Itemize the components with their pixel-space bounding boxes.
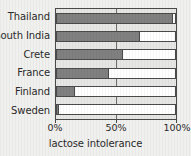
x-axis-tick-label: 100% [164, 122, 191, 133]
bar-row [56, 9, 176, 27]
bar-track [56, 104, 176, 115]
bar-row [56, 27, 176, 45]
x-axis-tick-labels: 0%50%100% [35, 122, 191, 135]
bar-row [56, 64, 176, 82]
bar-track [56, 31, 176, 42]
category-label: Crete [0, 45, 53, 64]
x-axis-tick-label: 50% [106, 122, 127, 133]
category-label: Sweden [0, 101, 53, 120]
bar-fill [57, 105, 59, 114]
x-axis-tick-label: 0% [48, 122, 63, 133]
bar-fill [57, 87, 75, 96]
x-axis-title: lactose intolerance [0, 138, 191, 149]
bar-fill [57, 32, 140, 41]
category-label: South India [0, 27, 53, 46]
bar-row [56, 101, 176, 119]
bar-rows [56, 9, 176, 119]
bar-track [56, 49, 176, 60]
category-axis-labels: Thailand South India Crete France Finlan… [0, 8, 53, 120]
bar-fill [57, 69, 109, 78]
bar-track [56, 13, 176, 24]
plot-area [55, 8, 177, 120]
bar-fill [57, 14, 173, 23]
chart-screenshot: Thailand South India Crete France Finlan… [0, 0, 191, 156]
category-label: Finland [0, 83, 53, 102]
bar-track [56, 68, 176, 79]
bar-row [56, 46, 176, 64]
bar-fill [57, 50, 123, 59]
bar-track [56, 86, 176, 97]
category-label: Thailand [0, 8, 53, 27]
bar-row [56, 82, 176, 100]
category-label: France [0, 64, 53, 83]
